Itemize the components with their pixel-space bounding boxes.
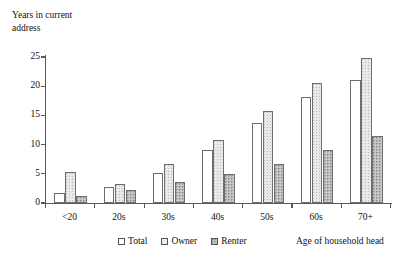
x-tick-label-70+: 70+ <box>345 212 385 222</box>
bar-total-60s <box>301 97 312 203</box>
y-axis-title-line-2: address <box>12 22 162 35</box>
x-tick-label-60s: 60s <box>296 212 336 222</box>
legend-label-renter: Renter <box>221 236 246 246</box>
legend-item-owner[interactable]: Owner <box>161 236 197 246</box>
legend-item-renter[interactable]: Renter <box>211 236 246 246</box>
x-tick-mark <box>390 203 391 208</box>
bar-renter-30s <box>175 182 186 203</box>
x-tick-label-20s: 20s <box>99 212 139 222</box>
x-tick-mark <box>94 203 95 208</box>
y-tick-label: 20 <box>6 81 40 91</box>
bar-owner-20s <box>115 184 126 203</box>
legend-item-total[interactable]: Total <box>118 236 147 246</box>
x-tick-mark <box>45 203 46 208</box>
y-tick-label: 10 <box>6 140 40 150</box>
bar-owner-40s <box>213 140 224 203</box>
y-axis-title: Years in current address <box>12 9 162 35</box>
legend: Total Owner Renter <box>118 236 247 246</box>
legend-label-total: Total <box>128 236 147 246</box>
bar-owner-30s <box>164 164 175 203</box>
x-tick-label-40s: 40s <box>198 212 238 222</box>
x-axis-title: Age of household head <box>296 236 384 246</box>
bar-renter-20s <box>126 190 137 203</box>
x-tick-label-50s: 50s <box>247 212 287 222</box>
bar-renter-70+ <box>372 136 383 203</box>
y-tick-label: 5 <box>6 169 40 179</box>
legend-swatch-renter-icon <box>211 238 218 245</box>
bar-owner-50s <box>263 111 274 203</box>
bar-owner-70+ <box>361 58 372 203</box>
x-tick-mark <box>193 203 194 208</box>
y-tick-label: 25 <box>6 52 40 62</box>
x-tick-label-20: <20 <box>50 212 90 222</box>
bar-owner-20 <box>65 172 76 203</box>
chart-container: Years in current address 0510152025 <202… <box>0 0 411 267</box>
x-tick-mark <box>144 203 145 208</box>
x-tick-mark <box>291 203 292 208</box>
bar-total-40s <box>202 150 213 203</box>
bar-renter-40s <box>224 174 235 203</box>
plot-area <box>46 57 391 203</box>
bar-owner-60s <box>312 83 323 203</box>
bar-total-50s <box>252 123 263 203</box>
y-tick-label: 0 <box>6 198 40 208</box>
x-tick-mark <box>242 203 243 208</box>
bar-total-30s <box>153 173 164 203</box>
bar-renter-20 <box>76 196 87 203</box>
bar-total-20 <box>54 193 65 203</box>
bar-total-70+ <box>350 80 361 203</box>
y-axis-title-line-1: Years in current <box>12 9 162 22</box>
y-tick-label: 15 <box>6 110 40 120</box>
legend-label-owner: Owner <box>171 236 197 246</box>
bar-renter-60s <box>323 150 334 203</box>
x-tick-mark <box>341 203 342 208</box>
legend-swatch-owner-icon <box>161 238 168 245</box>
bar-renter-50s <box>274 164 285 203</box>
bar-total-20s <box>104 187 115 203</box>
legend-swatch-total-icon <box>118 238 125 245</box>
x-tick-label-30s: 30s <box>148 212 188 222</box>
